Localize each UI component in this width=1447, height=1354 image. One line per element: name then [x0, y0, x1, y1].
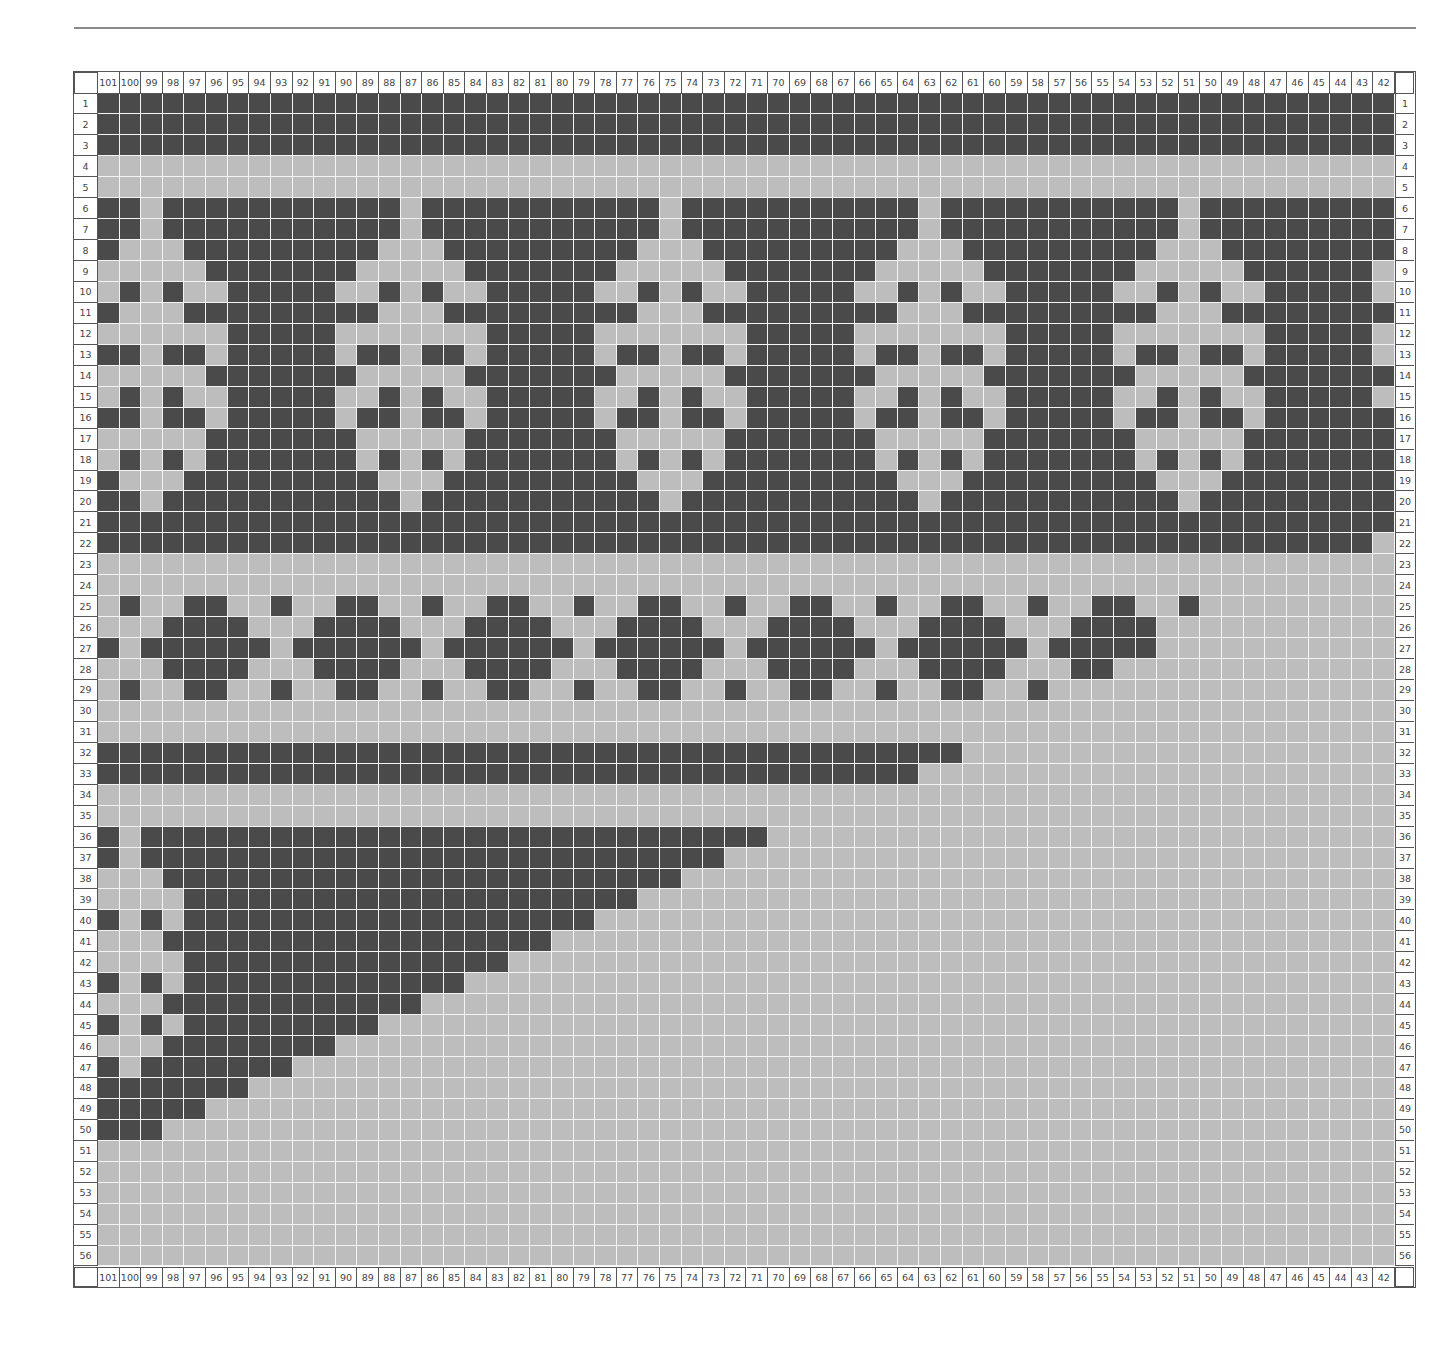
stitch-cell [682, 827, 704, 848]
stitch-cell [1244, 135, 1266, 156]
stitch-cell [703, 177, 725, 198]
stitch-cell [422, 596, 444, 617]
stitch-cell [876, 1162, 898, 1183]
stitch-cell [963, 324, 985, 345]
stitch-cell [617, 596, 639, 617]
stitch-cell [811, 1015, 833, 1036]
stitch-cell [1049, 491, 1071, 512]
stitch-cell [595, 764, 617, 785]
stitch-cell [1114, 387, 1136, 408]
stitch-cell [465, 806, 487, 827]
row-label-left: 35 [74, 806, 98, 827]
stitch-cell [120, 261, 142, 282]
stitch-cell [941, 1057, 963, 1078]
stitch-cell [293, 471, 315, 492]
stitch-cell [919, 910, 941, 931]
stitch-cell [682, 931, 704, 952]
stitch-cell [422, 680, 444, 701]
stitch-cell [1114, 94, 1136, 115]
stitch-cell [120, 743, 142, 764]
stitch-cell [574, 219, 596, 240]
stitch-cell [617, 282, 639, 303]
stitch-cell [206, 869, 228, 890]
row-label-left: 32 [74, 743, 98, 764]
stitch-cell [617, 701, 639, 722]
stitch-cell [1309, 512, 1331, 533]
stitch-cell [163, 282, 185, 303]
stitch-cell [487, 471, 509, 492]
stitch-cell [530, 94, 552, 115]
stitch-cell [682, 1099, 704, 1120]
stitch-cell [1222, 240, 1244, 261]
stitch-cell [1309, 617, 1331, 638]
stitch-cell [660, 471, 682, 492]
stitch-cell [1136, 450, 1158, 471]
stitch-cell [1352, 680, 1374, 701]
stitch-cell [1265, 764, 1287, 785]
row-label-left: 7 [74, 219, 98, 240]
stitch-cell [855, 1162, 877, 1183]
stitch-cell [293, 240, 315, 261]
stitch-cell [1006, 198, 1028, 219]
stitch-cell [811, 785, 833, 806]
stitch-cell [465, 114, 487, 135]
stitch-cell [1244, 1162, 1266, 1183]
stitch-cell [1373, 659, 1395, 680]
stitch-cell [876, 1225, 898, 1246]
stitch-cell [682, 324, 704, 345]
stitch-cell [855, 973, 877, 994]
stitch-cell [314, 1246, 336, 1267]
stitch-cell [1330, 303, 1352, 324]
stitch-cell [1071, 680, 1093, 701]
column-label-bottom: 71 [747, 1267, 769, 1288]
column-label-top: 61 [963, 72, 985, 94]
stitch-cell [184, 931, 206, 952]
stitch-cell [941, 638, 963, 659]
stitch-cell [249, 1162, 271, 1183]
stitch-cell [963, 1162, 985, 1183]
stitch-cell [401, 135, 423, 156]
stitch-cell [811, 1225, 833, 1246]
stitch-cell [465, 785, 487, 806]
stitch-cell [1287, 889, 1309, 910]
stitch-cell [941, 806, 963, 827]
stitch-cell [552, 1057, 574, 1078]
stitch-cell [768, 638, 790, 659]
stitch-cell [1222, 135, 1244, 156]
stitch-cell [228, 638, 250, 659]
stitch-cell [141, 94, 163, 115]
stitch-cell [617, 387, 639, 408]
stitch-cell [1179, 471, 1201, 492]
column-label-bottom: 57 [1049, 1267, 1071, 1288]
stitch-cell [249, 324, 271, 345]
stitch-cell [141, 408, 163, 429]
stitch-cell [984, 1078, 1006, 1099]
stitch-cell [141, 722, 163, 743]
stitch-cell [941, 533, 963, 554]
stitch-cell [747, 1246, 769, 1267]
stitch-cell [1179, 764, 1201, 785]
stitch-cell [249, 659, 271, 680]
stitch-cell [379, 94, 401, 115]
stitch-cell [876, 575, 898, 596]
stitch-cell [1049, 1036, 1071, 1057]
stitch-cell [163, 94, 185, 115]
stitch-cell [595, 1120, 617, 1141]
stitch-cell [963, 1099, 985, 1120]
stitch-cell [638, 806, 660, 827]
stitch-cell [941, 785, 963, 806]
stitch-cell [1092, 680, 1114, 701]
stitch-cell [1373, 1057, 1395, 1078]
stitch-cell [1028, 1183, 1050, 1204]
stitch-cell [487, 533, 509, 554]
stitch-cell [768, 994, 790, 1015]
stitch-cell [1309, 471, 1331, 492]
stitch-cell [725, 282, 747, 303]
stitch-cell [595, 429, 617, 450]
stitch-cell [487, 722, 509, 743]
stitch-cell [206, 1225, 228, 1246]
stitch-cell [1352, 177, 1374, 198]
stitch-cell [768, 450, 790, 471]
stitch-cell [552, 1015, 574, 1036]
stitch-cell [703, 1099, 725, 1120]
